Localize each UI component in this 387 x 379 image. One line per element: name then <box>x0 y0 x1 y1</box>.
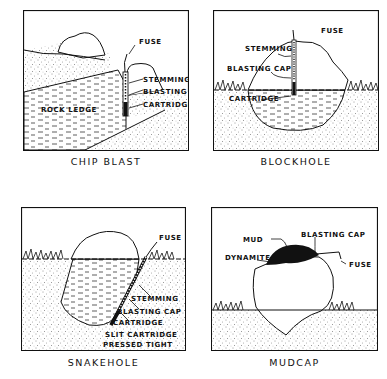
caption-mudcap: MUDCAP <box>211 357 378 368</box>
label-blasting-cap: BLASTING CAP <box>227 65 292 73</box>
chip-blast-illustration: FUSE STEMMING BLASTING CAP CARTRIDGE ROC… <box>23 10 189 151</box>
label-cartridge: CARTRIDGE <box>113 319 163 327</box>
caption-chip-blast: CHIP BLAST <box>23 156 189 167</box>
label-dynamite: DYNAMITE <box>225 254 271 262</box>
label-stemming: STEMMING <box>245 45 293 53</box>
blockhole-illustration: FUSE STEMMING BLASTING CAP CARTRIDGE <box>213 10 379 151</box>
label-cartridge: CARTRIDGE <box>143 101 189 109</box>
label-fuse: FUSE <box>321 27 344 35</box>
label-fuse: FUSE <box>349 261 372 269</box>
caption-snakehole: SNAKEHOLE <box>21 357 186 368</box>
label-fuse: FUSE <box>139 38 162 46</box>
label-stemming: STEMMING <box>131 295 179 303</box>
panel-blockhole: FUSE STEMMING BLASTING CAP CARTRIDGE <box>213 10 379 151</box>
label-blasting-cap: BLASTING CAP <box>117 308 182 316</box>
panel-snakehole: FUSE STEMMING BLASTING CAP CARTRIDGE SLI… <box>21 207 186 351</box>
label-rock-ledge: ROCK LEDGE <box>41 106 97 114</box>
label-slit-cartridge: SLIT CARTRIDGE <box>105 331 177 339</box>
mudcap-illustration: MUD BLASTING CAP DYNAMITE FUSE <box>211 207 378 351</box>
panel-mudcap: MUD BLASTING CAP DYNAMITE FUSE <box>211 207 378 351</box>
panel-chip-blast: FUSE STEMMING BLASTING CAP CARTRIDGE ROC… <box>23 10 189 151</box>
label-cartridge: CARTRIDGE <box>229 95 279 103</box>
label-mud: MUD <box>243 236 263 244</box>
snakehole-illustration: FUSE STEMMING BLASTING CAP CARTRIDGE SLI… <box>21 207 186 351</box>
label-pressed-tight: PRESSED TIGHT <box>103 341 173 349</box>
label-blasting-cap: BLASTING CAP <box>143 88 189 96</box>
label-blasting-cap: BLASTING CAP <box>301 231 366 239</box>
caption-blockhole: BLOCKHOLE <box>213 156 379 167</box>
label-stemming: STEMMING <box>143 76 189 84</box>
label-fuse: FUSE <box>159 234 182 242</box>
